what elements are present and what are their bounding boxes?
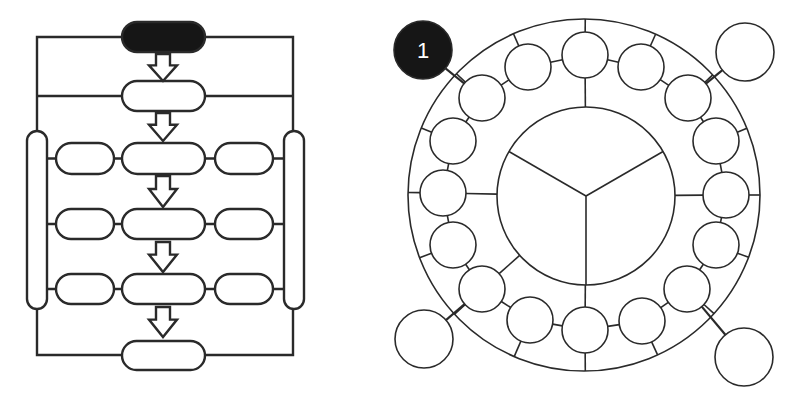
flow-node-left-row-1 [56, 143, 114, 174]
ring-node [664, 266, 710, 312]
corner-connector [702, 307, 726, 335]
ring-spoke-connector [738, 253, 749, 257]
chain-connector [466, 264, 470, 270]
ring-node [430, 118, 476, 164]
hub-connector [499, 255, 520, 273]
ring-spoke-connector [652, 342, 658, 355]
flow-node-step-1 [122, 81, 205, 111]
flowchart-diagram [27, 22, 304, 370]
down-arrow-icon [149, 307, 177, 337]
down-arrow-icon [149, 176, 177, 207]
chain-connector [553, 324, 563, 326]
ring-node [619, 298, 665, 344]
ring-spoke-connector [420, 253, 432, 258]
ring-node [505, 44, 551, 90]
chain-connector [551, 60, 563, 63]
side-bar-right [284, 131, 304, 309]
down-arrow-icon [149, 113, 177, 141]
flow-node-step-2 [122, 143, 205, 174]
ring-spoke-connector [737, 128, 747, 132]
chain-connector [720, 164, 722, 173]
ring-node [507, 297, 553, 343]
chain-connector [466, 117, 469, 122]
ring-node [618, 44, 664, 90]
flow-node-left-row-2 [56, 209, 114, 239]
ring-node [693, 222, 739, 268]
chain-connector [501, 301, 510, 307]
flow-node-right-row-3 [215, 274, 273, 304]
down-arrow-icon [149, 242, 177, 272]
ring-spoke-connector [513, 34, 518, 46]
chain-connector [447, 216, 448, 223]
ring-node [430, 222, 476, 268]
ring-spoke-connector [650, 34, 655, 46]
flow-node-left-row-3 [56, 274, 114, 304]
corner-node-top-right [716, 23, 774, 81]
chain-connector [501, 80, 509, 85]
corner-node-bottom-right [715, 328, 773, 386]
hub-connector [466, 193, 497, 194]
ring-spoke-connector [514, 341, 521, 356]
badge-number-label: 1 [417, 38, 429, 63]
chain-connector [608, 325, 620, 327]
ring-node [420, 170, 466, 216]
ring-node [562, 307, 608, 353]
ring-node [459, 266, 505, 312]
chain-connector [607, 60, 618, 62]
flow-node-right-row-1 [215, 143, 273, 174]
down-arrow-icon [149, 54, 177, 81]
diagram-canvas: 1 [0, 0, 797, 393]
ring-node [562, 32, 608, 78]
chain-connector [661, 302, 669, 307]
ring-node [703, 172, 749, 218]
chain-connector [660, 80, 669, 86]
ring-spoke-connector [421, 128, 431, 132]
flow-node-start [122, 22, 205, 52]
flow-node-end [122, 341, 205, 370]
chain-connector [447, 164, 448, 171]
ring-node [665, 75, 711, 121]
chain-connector [700, 264, 704, 270]
flow-node-step-4 [122, 274, 205, 304]
ring-diagram: 1 [394, 19, 774, 386]
flow-node-right-row-2 [215, 209, 273, 239]
flow-node-step-3 [122, 209, 205, 239]
ring-node [459, 75, 505, 121]
side-bar-left [27, 131, 47, 309]
corner-node-bottom-left [395, 310, 453, 368]
ring-node [693, 118, 739, 164]
